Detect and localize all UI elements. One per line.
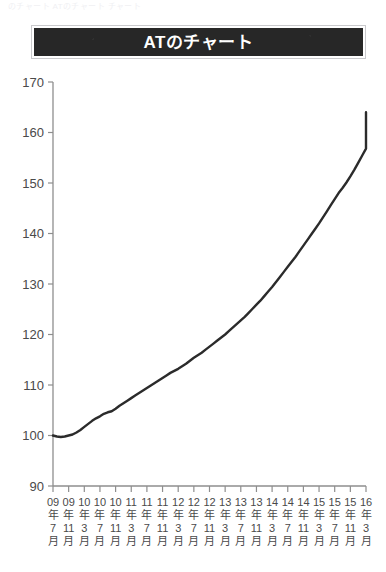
x-axis-tick-label: 年 [329, 508, 340, 521]
y-axis-tick-label: 170 [22, 75, 44, 90]
x-axis-tick-label: 7 [50, 522, 56, 534]
x-axis-tick-label: 11 [157, 496, 168, 508]
x-axis-tick-label: 月 [298, 535, 309, 547]
x-axis-tick-label: 15 [329, 496, 341, 508]
x-axis-tick-label: 15 [313, 496, 325, 508]
x-axis-tick-label: 7 [97, 522, 103, 534]
x-axis-tick-label: 09 [47, 496, 59, 508]
x-axis-tick-group [53, 486, 366, 492]
x-axis-tick-label: 11 [298, 522, 309, 534]
x-axis-label-group: 09年7月09年11月10年3月10年7月10年11月11年3月11年7月11年… [47, 496, 372, 547]
x-axis-tick-label: 10 [78, 496, 90, 508]
x-axis-tick-label: 月 [157, 535, 168, 547]
x-axis-tick-label: 11 [345, 522, 356, 534]
chart-plot-area: 90100110120130140150160170 09年7月09年11月10… [0, 68, 386, 572]
x-axis-tick-label: 09 [63, 496, 75, 508]
x-axis-tick-label: 11 [63, 522, 74, 534]
x-axis-tick-label: 11 [141, 496, 152, 508]
x-axis-tick-label: 16 [360, 496, 372, 508]
y-axis-tick-label: 160 [22, 125, 44, 140]
x-axis-tick-label: 13 [235, 496, 247, 508]
x-axis-tick-label: 年 [141, 508, 152, 521]
x-axis-tick-label: 年 [126, 508, 137, 521]
y-axis-tick-label: 90 [30, 479, 44, 494]
x-axis-tick-label: 年 [79, 508, 90, 521]
x-axis-tick-label: 14 [297, 496, 309, 508]
x-axis-tick-label: 年 [282, 508, 293, 521]
x-axis-tick-label: 年 [314, 508, 325, 521]
x-axis-tick-label: 12 [172, 496, 184, 508]
x-axis-tick-label: 年 [157, 508, 168, 521]
x-axis-tick-label: 月 [235, 535, 246, 547]
x-axis-tick-label: 7 [332, 522, 338, 534]
x-axis-tick-label: 12 [188, 496, 200, 508]
y-axis-tick-label: 150 [22, 176, 44, 191]
x-axis-tick-label: 年 [235, 508, 246, 521]
x-axis-tick-label: 7 [191, 522, 197, 534]
x-axis-tick-label: 11 [110, 522, 121, 534]
x-axis-tick-label: 7 [144, 522, 150, 534]
x-axis-tick-label: 月 [220, 535, 231, 547]
x-axis-tick-label: 月 [361, 535, 372, 547]
x-axis-tick-label: 年 [188, 508, 199, 521]
x-axis-tick-label: 月 [204, 535, 215, 547]
x-axis-tick-label: 年 [48, 508, 59, 521]
x-axis-tick-label: 10 [109, 496, 121, 508]
x-axis-tick-label: 月 [173, 535, 184, 547]
y-axis-label-group: 90100110120130140150160170 [22, 75, 44, 494]
x-axis-tick-label: 年 [173, 508, 184, 521]
data-series-line [53, 112, 366, 437]
x-axis-tick-label: 13 [250, 496, 262, 508]
x-axis-tick-label: 年 [63, 508, 74, 521]
x-axis-tick-label: 11 [204, 522, 215, 534]
y-axis-tick-label: 100 [22, 428, 44, 443]
x-axis-tick-label: 11 [126, 496, 137, 508]
x-axis-tick-label: 年 [251, 508, 262, 521]
x-axis-tick-label: 月 [329, 535, 340, 547]
faint-header-text: のチャート ATのチャート チャート [8, 1, 308, 13]
line-chart-svg: 90100110120130140150160170 09年7月09年11月10… [0, 68, 386, 572]
x-axis-tick-label: 3 [175, 522, 181, 534]
x-axis-tick-label: 月 [314, 535, 325, 547]
x-axis-tick-label: 14 [282, 496, 294, 508]
x-axis-tick-label: 月 [188, 535, 199, 547]
x-axis-tick-label: 3 [316, 522, 322, 534]
x-axis-tick-label: 3 [269, 522, 275, 534]
x-axis-tick-label: 月 [141, 535, 152, 547]
x-axis-tick-label: 月 [282, 535, 293, 547]
x-axis-tick-label: 13 [219, 496, 231, 508]
x-axis-tick-label: 月 [126, 535, 137, 547]
x-axis-tick-label: 3 [81, 522, 87, 534]
x-axis-tick-label: 月 [63, 535, 74, 547]
x-axis-tick-label: 年 [220, 508, 231, 521]
x-axis-tick-label: 15 [344, 496, 356, 508]
y-axis-tick-label: 110 [23, 378, 44, 393]
x-axis-tick-label: 11 [251, 522, 262, 534]
x-axis-tick-label: 7 [238, 522, 244, 534]
x-axis-tick-label: 3 [363, 522, 369, 534]
x-axis-tick-label: 月 [79, 535, 90, 547]
page-title: ATのチャート [144, 34, 254, 51]
x-axis-tick-label: 月 [267, 535, 278, 547]
x-axis-tick-label: 12 [203, 496, 215, 508]
x-axis-tick-label: 年 [94, 508, 105, 521]
y-axis-tick-label: 140 [22, 226, 44, 241]
x-axis-tick-label: 月 [94, 535, 105, 547]
chart-title-bar-inner: ATのチャート [34, 28, 363, 56]
x-axis-tick-label: 月 [345, 535, 356, 547]
y-axis-tick-label: 130 [22, 277, 44, 292]
x-axis-tick-label: 年 [361, 508, 372, 521]
chart-title-bar: ATのチャート [31, 25, 366, 59]
x-axis-tick-label: 7 [285, 522, 291, 534]
x-axis-tick-label: 3 [128, 522, 134, 534]
y-axis-tick-label: 120 [22, 327, 44, 342]
y-axis-tick-group [48, 82, 53, 486]
x-axis-tick-label: 月 [110, 535, 121, 547]
x-axis-tick-label: 10 [94, 496, 106, 508]
x-axis-tick-label: 年 [267, 508, 278, 521]
x-axis-tick-label: 11 [157, 522, 168, 534]
x-axis-tick-label: 14 [266, 496, 278, 508]
x-axis-tick-label: 年 [204, 508, 215, 521]
x-axis-tick-label: 3 [222, 522, 228, 534]
x-axis-tick-label: 年 [298, 508, 309, 521]
